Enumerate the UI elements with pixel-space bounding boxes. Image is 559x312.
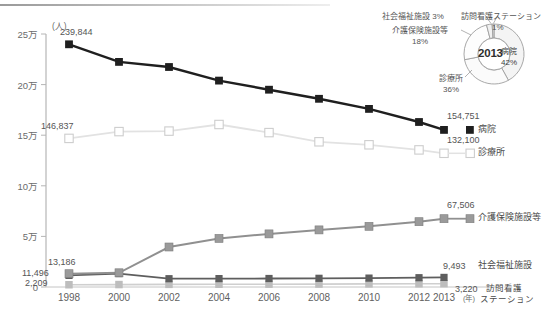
donut-label-homon-kango: 訪問看護ステーション — [461, 12, 541, 22]
x-tick-2000: 2000 — [99, 293, 139, 303]
value-label-shinryojo-1998: 146,837 — [41, 122, 74, 131]
series-label-byoin: 病院 — [478, 125, 496, 134]
series-markers-shinryojo — [65, 120, 448, 157]
donut-label-kaigo-hoken: 介護保険施設等 — [392, 26, 448, 36]
x-axis-unit-label: (年) — [463, 295, 475, 303]
y-tick-50000: 5万 — [8, 232, 38, 242]
legend-marker-shinryojo — [466, 149, 474, 157]
series-line-shinryojo — [65, 120, 475, 157]
donut-label-byoin-percent: 42% — [501, 58, 517, 68]
line-chart-graphic — [0, 0, 559, 312]
x-tick-2004: 2004 — [199, 293, 239, 303]
value-label-byoin-2013: 154,751 — [447, 112, 480, 121]
value-label-byoin-1998: 239,844 — [60, 28, 93, 37]
series-label-kaigo-hoken: 介護保険施設等 — [478, 213, 541, 222]
y-tick-100000: 10万 — [8, 182, 38, 192]
series-label-homon-kango-line2: ステーション — [480, 295, 534, 305]
x-tick-2006: 2006 — [249, 293, 289, 303]
value-label-shinryojo-2013: 132,100 — [447, 136, 480, 145]
donut-label-byoin: 病院 — [501, 47, 517, 57]
x-tick-2002: 2002 — [149, 293, 189, 303]
value-label-kaigo-2013: 67,506 — [447, 201, 475, 210]
donut-label-shinryojo-percent: 36% — [443, 85, 459, 95]
value-label-shakai-1998: 11,496 — [22, 269, 49, 278]
y-tick-150000: 15万 — [8, 131, 38, 141]
donut-label-kaigo-hoken-percent: 18% — [412, 37, 428, 47]
donut-center-year-label: 2013 — [478, 48, 503, 60]
x-tick-2008: 2008 — [299, 293, 339, 303]
x-tick-2010: 2010 — [349, 293, 389, 303]
value-label-kaigo-1998: 13,186 — [48, 258, 76, 267]
y-tick-250000: 25万 — [8, 30, 38, 40]
series-label-shinryojo: 診療所 — [478, 148, 505, 157]
leader-line-kaigo-hoken — [461, 30, 471, 35]
value-label-homon-2013: 3,220 — [455, 285, 478, 294]
value-label-homon-1998: 2,209 — [25, 279, 48, 288]
chart-page: (人) 25万 20万 15万 10万 5万 0 1998 2000 2002 … — [0, 0, 559, 312]
value-label-shakai-2013: 9,493 — [443, 262, 466, 271]
donut-label-shakai-fukushi: 社会福祉施設 3% — [382, 12, 444, 22]
y-tick-200000: 20万 — [8, 81, 38, 91]
series-label-homon-kango-line1: 訪問看護 — [486, 284, 522, 294]
series-line-byoin — [65, 40, 474, 133]
x-tick-1998: 1998 — [49, 293, 89, 303]
x-tick-2013: 2013 — [424, 293, 464, 303]
donut-label-shinryojo: 診療所 — [439, 74, 463, 84]
series-line-kaigo-hoken — [65, 215, 448, 278]
legend-marker-byoin — [466, 126, 474, 134]
legend-marker-kaigo-hoken — [466, 215, 474, 223]
donut-label-homon-kango-percent: 1% — [492, 23, 504, 33]
series-label-shakai-fukushi: 社会福祉施設 — [478, 261, 532, 270]
y-axis-ticks — [41, 34, 46, 287]
